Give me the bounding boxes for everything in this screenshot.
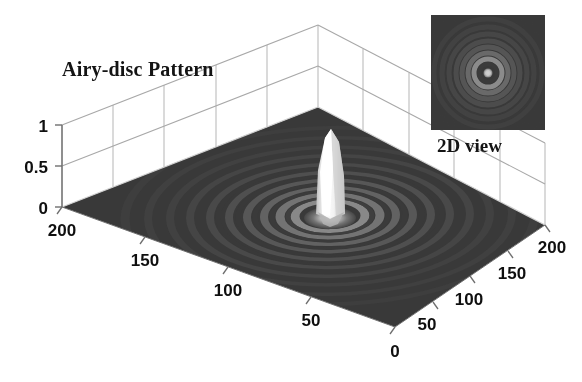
y-tick-label-150: 150 xyxy=(498,264,526,283)
inset-grain xyxy=(431,15,545,130)
airy-disc-3d-plot: 1 0.5 0 200 150 100 50 0 xyxy=(0,0,582,382)
x-tick-label-150: 150 xyxy=(131,251,159,270)
z-tick-label-1: 1 xyxy=(39,117,48,136)
x-tick-label-0: 0 xyxy=(390,342,399,361)
y-tick-label-100: 100 xyxy=(455,290,483,309)
x-tick-label-200: 200 xyxy=(48,221,76,240)
x-tick-label-100: 100 xyxy=(214,281,242,300)
figure-canvas: 1 0.5 0 200 150 100 50 0 xyxy=(0,0,582,382)
inset-caption: 2D view xyxy=(437,135,502,156)
y-tick-label-200: 200 xyxy=(538,238,566,257)
z-tick-label-05: 0.5 xyxy=(24,158,48,177)
inset-rings-group xyxy=(431,15,545,130)
y-tick-label-50: 50 xyxy=(418,315,437,334)
x-tick-label-50: 50 xyxy=(302,311,321,330)
z-tick-label-0: 0 xyxy=(39,199,48,218)
page-title: Airy-disc Pattern xyxy=(62,58,214,81)
